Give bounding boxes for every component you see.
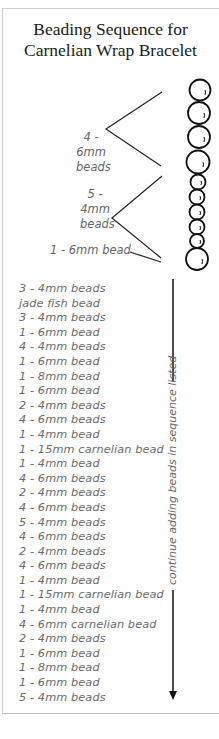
continue-instruction-text: continue adding beads in sequence listed (166, 356, 179, 585)
bead-chain (186, 80, 211, 271)
bead-6mm-2 (188, 102, 210, 124)
list-item: 1 - 6mm bead (19, 355, 164, 370)
list-item: 4 - 6mm beads (19, 559, 164, 574)
label-connectors (106, 92, 162, 262)
list-item: 2 - 4mm beads (19, 545, 164, 560)
bead-6mm-4 (187, 151, 210, 174)
bead-4mm-3 (190, 205, 205, 220)
list-item: 1 - 8mm bead (19, 370, 164, 385)
list-item: 4 - 6mm beads (19, 472, 164, 487)
bead-4mm-1 (191, 175, 206, 190)
bead-4mm-2 (190, 190, 205, 205)
list-item: 1 - 4mm bead (19, 574, 164, 589)
list-item: 4 - 6mm beads (19, 413, 164, 428)
list-item: 1 - 15mm carnelian bead (19, 443, 164, 458)
list-item: 1 - 4mm bead (19, 603, 164, 618)
list-item: 4 - 6mm beads (19, 530, 164, 545)
list-item: 1 - 15mm carnelian bead (19, 588, 164, 603)
list-item: 2 - 4mm beads (19, 486, 164, 501)
list-item: jade fish bead (19, 297, 164, 312)
list-item: 4 - 6mm beads (19, 501, 164, 516)
list-item: 3 - 4mm beads (19, 282, 164, 297)
list-item: 1 - 8mm bead (19, 661, 164, 676)
arrow-down-icon (169, 691, 177, 700)
group-label-5x4mm: 5 - 4mm beads (80, 187, 110, 232)
bead-4mm-4 (190, 220, 205, 235)
list-item: 1 - 6mm bead (19, 326, 164, 341)
single-bead-label: 1 - 6mm bead (50, 243, 131, 258)
bead-6mm-3 (188, 126, 210, 148)
bead-sequence-list: 3 - 4mm beads jade fish bead 3 - 4mm bea… (19, 282, 164, 705)
list-item: 4 - 4mm beads (19, 340, 164, 355)
list-item: 1 - 6mm bead (19, 676, 164, 691)
list-item: 2 - 4mm beads (19, 632, 164, 647)
list-item: 5 - 4mm beads (19, 516, 164, 531)
list-item: 4 - 6mm carnelian bead (19, 618, 164, 633)
list-item: 1 - 6mm bead (19, 647, 164, 662)
list-item: 1 - 4mm bead (19, 457, 164, 472)
bead-6mm-5 (186, 248, 208, 270)
list-item: 1 - 6mm bead (19, 384, 164, 399)
group-label-4x6mm: 4 - 6mm beads (76, 130, 106, 175)
list-item: 1 - 4mm bead (19, 428, 164, 443)
list-item: 2 - 4mm beads (19, 399, 164, 414)
bead-4mm-5 (190, 234, 204, 248)
list-item: 3 - 4mm beads (19, 311, 164, 326)
bead-6mm-1 (190, 80, 211, 101)
connector-group-1 (106, 92, 162, 166)
list-item: 5 - 4mm beads (19, 691, 164, 706)
